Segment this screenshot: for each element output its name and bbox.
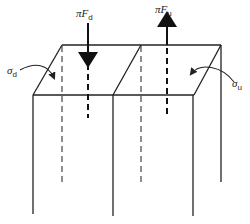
middle-diagonal-edge: [113, 45, 141, 95]
right-diagonal-edge: [194, 45, 221, 95]
force-up-label: πFu: [155, 3, 172, 18]
left-diagonal-edge: [33, 45, 62, 95]
stress-up-label: σu: [232, 77, 242, 92]
stress-down-label: σd: [7, 64, 17, 79]
stress-up-curved-arrow: [191, 67, 234, 82]
slab-force-diagram: πFd πFu σd σu: [0, 0, 250, 224]
force-down-label: πFd: [76, 7, 93, 22]
